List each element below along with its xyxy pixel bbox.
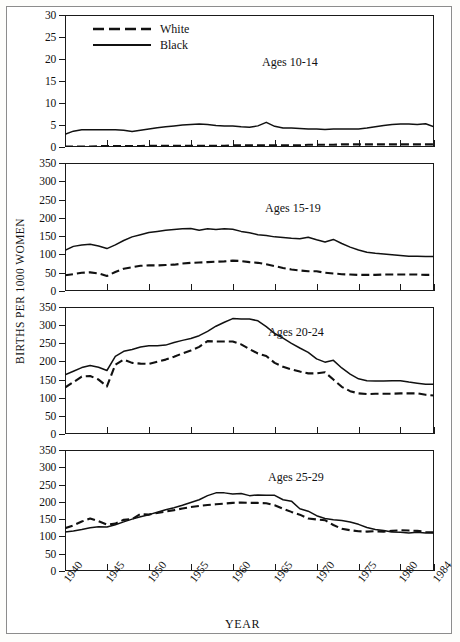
y-tick-label: 0 (50, 565, 56, 577)
y-tick-label: 200 (39, 212, 56, 224)
y-tick-label: 250 (39, 194, 56, 206)
y-tick-label: 350 (39, 157, 56, 169)
chart-panel-ages-25-29: 050100150200250300350 (65, 450, 434, 571)
y-tick-label: 300 (39, 319, 56, 331)
x-tick-mark (434, 427, 435, 434)
y-tick-label: 100 (39, 530, 56, 542)
series-line-white (65, 144, 434, 146)
y-tick-label: 30 (45, 9, 56, 21)
y-tick-label: 25 (45, 31, 56, 43)
y-tick-label: 150 (39, 374, 56, 386)
series-canvas (65, 450, 434, 571)
series-line-black (65, 493, 434, 533)
series-line-black (65, 228, 434, 256)
y-tick-label: 5 (50, 119, 56, 131)
x-tick-mark (434, 140, 435, 147)
panel-title: Ages 20-24 (268, 325, 324, 340)
series-line-black (65, 319, 434, 385)
series-line-white (65, 341, 434, 395)
legend: WhiteBlack (93, 21, 189, 53)
y-tick-label: 100 (39, 392, 56, 404)
y-tick-label: 50 (45, 410, 56, 422)
y-tick-label: 250 (39, 479, 56, 491)
legend-swatch-solid-icon (93, 40, 151, 50)
y-tick-label: 350 (39, 444, 56, 456)
chart-panel-ages-20-24: 050100150200250300350 (65, 307, 434, 434)
figure-fertility-rates-by-age: BIRTHS PER 1000 WOMEN YEAR 0510152025300… (0, 0, 460, 642)
y-tick-label: 50 (45, 548, 56, 560)
y-tick-label: 0 (50, 285, 56, 297)
y-tick-label: 200 (39, 496, 56, 508)
legend-label: White (160, 22, 189, 37)
series-canvas (65, 307, 434, 434)
panel-title: Ages 25-29 (268, 470, 324, 485)
y-tick-label: 350 (39, 301, 56, 313)
y-tick-mark (59, 291, 65, 292)
x-tick-mark (434, 284, 435, 291)
x-axis-label: YEAR (225, 617, 260, 632)
y-tick-mark (59, 147, 65, 148)
y-tick-label: 20 (45, 53, 56, 65)
y-tick-label: 250 (39, 337, 56, 349)
legend-entry-black: Black (93, 37, 189, 53)
y-tick-label: 150 (39, 230, 56, 242)
series-canvas (65, 163, 434, 291)
y-tick-label: 300 (39, 461, 56, 473)
y-tick-label: 150 (39, 513, 56, 525)
panel-title: Ages 10-14 (262, 55, 318, 70)
series-line-black (65, 122, 434, 134)
y-tick-label: 200 (39, 355, 56, 367)
legend-swatch-dashed-icon (93, 24, 151, 34)
y-tick-label: 50 (45, 267, 56, 279)
y-tick-mark (59, 434, 65, 435)
legend-label: Black (160, 38, 188, 53)
y-tick-label: 15 (45, 75, 56, 87)
y-tick-label: 10 (45, 97, 56, 109)
chart-panel-ages-15-19: 050100150200250300350 (65, 163, 434, 291)
y-tick-label: 300 (39, 175, 56, 187)
series-line-white (65, 261, 434, 276)
y-tick-label: 100 (39, 248, 56, 260)
y-tick-label: 0 (50, 141, 56, 153)
panel-title: Ages 15-19 (265, 201, 321, 216)
y-tick-label: 0 (50, 428, 56, 440)
y-axis-label: BIRTHS PER 1000 WOMEN (14, 211, 26, 371)
series-line-white (65, 503, 434, 533)
legend-entry-white: White (93, 21, 189, 37)
